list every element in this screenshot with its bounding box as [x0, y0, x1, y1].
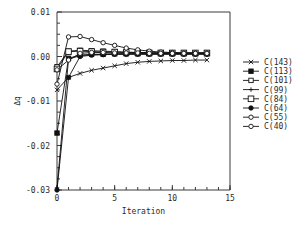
series-marker-C40	[147, 51, 151, 55]
legend-label-C55: C(55)	[264, 113, 288, 122]
series-marker-C55	[112, 43, 116, 47]
x-axis-label: Iteration	[122, 207, 166, 216]
series-marker-C40	[112, 51, 116, 55]
x-tick-label: 5	[112, 194, 117, 203]
series-marker-C40	[136, 51, 140, 55]
x-tick-label: 15	[225, 194, 235, 203]
legend-marker-C64	[249, 106, 253, 110]
y-tick-label: -0.02	[26, 142, 50, 151]
series-marker-C55	[55, 82, 59, 86]
series-marker-C40	[66, 58, 70, 62]
x-tick-label: 10	[168, 194, 178, 203]
series-marker-C55	[66, 35, 70, 39]
legend-label-C84: C(84)	[264, 95, 288, 104]
x-tick-label: 0	[55, 194, 60, 203]
y-tick-label: 0.00	[31, 53, 50, 62]
y-tick-label: 0.01	[31, 8, 50, 17]
series-marker-C64	[66, 75, 70, 79]
series-marker-C64	[55, 188, 59, 192]
series-marker-C84	[66, 49, 72, 55]
series-marker-C113	[55, 131, 59, 135]
series-marker-C55	[78, 34, 82, 38]
legend-label-C101: C(101)	[264, 76, 293, 85]
legend-marker-C40	[249, 124, 253, 128]
series-marker-C40	[89, 50, 93, 54]
series-line-C113	[57, 54, 207, 133]
series-marker-C40	[205, 51, 209, 55]
series-marker-C55	[89, 37, 93, 41]
legend-label-C64: C(64)	[264, 104, 288, 113]
y-tick-label: -0.03	[26, 186, 50, 195]
series-marker-C55	[101, 41, 105, 45]
legend-label-C113: C(113)	[264, 67, 293, 76]
legend-label-C40: C(40)	[264, 122, 288, 131]
series-marker-C40	[124, 51, 128, 55]
series-marker-C55	[124, 46, 128, 50]
series-marker-C40	[170, 51, 174, 55]
legend-marker-C101	[249, 78, 253, 82]
series-line-C64	[57, 54, 207, 190]
series-marker-C40	[159, 51, 163, 55]
legend-marker-C99	[249, 87, 253, 91]
axis-frame	[57, 12, 230, 190]
series-marker-C40	[55, 68, 59, 72]
series-marker-C40	[193, 51, 197, 55]
series-marker-C40	[101, 50, 105, 54]
legend-marker-C113	[249, 69, 253, 73]
series-line-C143	[57, 60, 207, 90]
legend-label-C99: C(99)	[264, 86, 288, 95]
legend-label-C143: C(143)	[264, 58, 293, 67]
series-marker-C40	[78, 51, 82, 55]
axis-spines	[57, 12, 230, 190]
chart-figure: 0.010.00-0.01-0.02-0.03051015IterationΔq…	[0, 0, 308, 232]
series-marker-C40	[182, 51, 186, 55]
legend-marker-C84	[248, 96, 254, 102]
legend-marker-C55	[249, 115, 253, 119]
y-tick-label: -0.01	[26, 97, 50, 106]
y-axis-label: Δq	[13, 96, 22, 106]
